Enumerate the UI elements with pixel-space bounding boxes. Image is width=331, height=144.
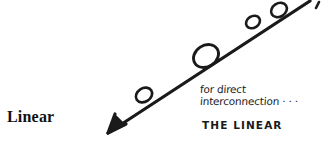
node-4-circle	[133, 85, 155, 106]
figure-canvas: Linear for direct interconnection · · · …	[0, 0, 331, 144]
annotation-line-2: interconnection · · ·	[200, 96, 329, 108]
page-title: Linear	[7, 108, 54, 126]
node-3-circle	[189, 40, 223, 72]
handwritten-annotation: for direct interconnection · · ·	[200, 84, 328, 107]
node-2-circle	[244, 13, 263, 31]
annotation-caption: THE LINEAR	[202, 119, 283, 131]
tick-mark-icon	[316, 2, 319, 8]
annotation-line-1: for direct	[200, 84, 329, 96]
